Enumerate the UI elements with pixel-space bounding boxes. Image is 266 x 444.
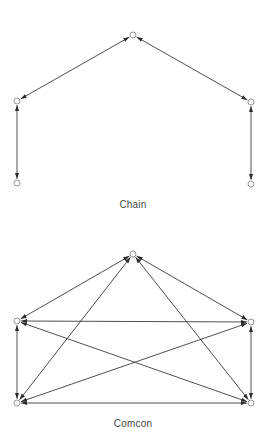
chain-nodes xyxy=(14,32,254,187)
edge-top-left-mid xyxy=(21,37,130,99)
node-top xyxy=(130,32,136,38)
chain-label: Chain xyxy=(119,199,146,210)
comcon-nodes xyxy=(14,251,254,406)
node-left-mid xyxy=(14,318,20,324)
chain-edges xyxy=(17,37,251,180)
comcon-diagram xyxy=(14,251,254,406)
node-left-bottom xyxy=(14,180,20,186)
chain-diagram xyxy=(14,32,254,187)
node-right-mid xyxy=(248,319,254,325)
edge-left-mid-right-mid xyxy=(21,321,247,322)
node-left-mid xyxy=(14,98,20,104)
edge-top-left-mid xyxy=(21,256,130,319)
node-right-bottom xyxy=(248,181,254,187)
edge-top-right-mid xyxy=(137,37,248,100)
edge-top-left-bottom xyxy=(20,257,131,399)
edge-top-right-mid xyxy=(137,256,248,320)
network-diagrams-canvas xyxy=(0,0,266,444)
node-right-mid xyxy=(248,99,254,105)
node-right-bottom xyxy=(248,400,254,406)
comcon-label: Comcon xyxy=(114,418,152,429)
node-left-bottom xyxy=(14,400,20,406)
node-top xyxy=(130,251,136,257)
comcon-edges xyxy=(17,256,251,403)
